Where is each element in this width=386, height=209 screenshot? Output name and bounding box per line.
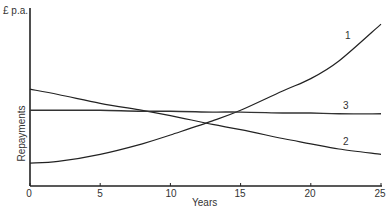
x-tick-5: 5 [90, 188, 110, 199]
series-label-3: 3 [343, 100, 349, 111]
series-label-1: 1 [345, 30, 351, 41]
series-line-1 [30, 24, 381, 163]
series-line-2 [30, 89, 381, 154]
series-label-2: 2 [343, 136, 349, 147]
x-tick-15: 15 [230, 188, 250, 199]
chart-canvas [0, 0, 386, 209]
y-unit-label: £ p.a. [3, 5, 28, 16]
x-axis-label: Years [192, 197, 217, 208]
x-tick-25: 25 [370, 188, 386, 199]
x-tick-0: 0 [19, 188, 39, 199]
x-tick-10: 10 [161, 188, 181, 199]
series-line-3 [30, 110, 381, 114]
y-axis-label: Repayments [16, 99, 27, 169]
x-tick-20: 20 [300, 188, 320, 199]
